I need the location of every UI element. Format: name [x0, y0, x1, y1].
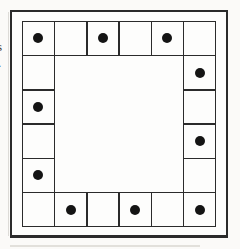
scanned-figure-page: s . t [0, 0, 240, 249]
dot-marker [33, 102, 43, 112]
ring-cell [55, 193, 86, 226]
ring-cell [55, 22, 86, 55]
ring-of-cells [22, 21, 216, 227]
dot-marker [33, 170, 43, 180]
ring-cell [120, 22, 151, 55]
ring-cell [184, 159, 215, 192]
dot-marker [33, 33, 43, 43]
dot-marker [130, 205, 140, 215]
dot-marker [98, 33, 108, 43]
ring-cell [23, 91, 54, 124]
ring-cell [184, 22, 215, 55]
dot-marker [162, 33, 172, 43]
ring-cell [23, 22, 54, 55]
cutoff-text-fragment: s [0, 40, 2, 53]
ring-cell [23, 125, 54, 158]
ring-cell [184, 91, 215, 124]
board-inner-empty-area [55, 56, 183, 192]
ring-cell [23, 159, 54, 192]
ring-cell [120, 193, 151, 226]
ring-cell [88, 193, 119, 226]
ring-cell [184, 56, 215, 89]
ring-cell [152, 193, 183, 226]
ring-cell [23, 193, 54, 226]
scan-bottom-smudge [10, 245, 200, 247]
ring-cell [152, 22, 183, 55]
ring-cell [23, 56, 54, 89]
dot-marker [195, 136, 205, 146]
ring-cell [184, 193, 215, 226]
dot-marker [195, 68, 205, 78]
ring-cell [184, 125, 215, 158]
cutoff-text-fragment: . [0, 56, 1, 69]
ring-cell [88, 22, 119, 55]
dot-marker [195, 205, 205, 215]
scan-gutter-shadow [8, 12, 9, 236]
dot-marker [66, 205, 76, 215]
